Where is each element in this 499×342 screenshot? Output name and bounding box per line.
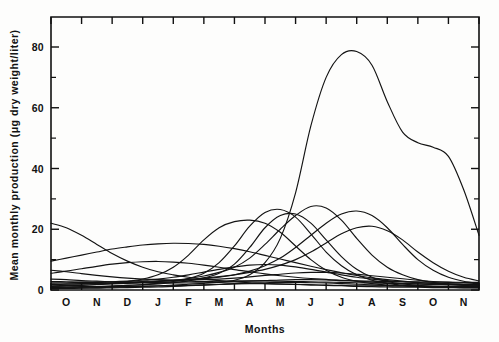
y-axis-title: Mean monthly production (μg dry weight/l… (8, 29, 20, 280)
x-tick-label: N (460, 296, 468, 308)
x-tick-label: O (62, 296, 70, 308)
series-layer (51, 51, 479, 289)
y-tick-label: 60 (32, 102, 44, 114)
y-tick-label: 80 (32, 41, 44, 53)
x-tick-label: D (123, 296, 131, 308)
x-tick-label: A (246, 296, 254, 308)
x-tick-label: N (93, 296, 101, 308)
chart-canvas: 020406080ONDJFMAMJJASON Months Mean mont… (0, 0, 499, 342)
x-tick-label: S (399, 296, 406, 308)
y-tick-label: 20 (32, 223, 44, 235)
series-line (51, 51, 479, 289)
y-tick-label: 40 (32, 163, 44, 175)
x-tick-label: J (308, 296, 314, 308)
x-axis-title: Months (245, 323, 285, 335)
x-tick-label: J (338, 296, 344, 308)
x-tick-label: O (429, 296, 437, 308)
chart-figure: 020406080ONDJFMAMJJASON Months Mean mont… (0, 0, 499, 342)
y-tick-label: 0 (38, 284, 44, 296)
axis-tick-labels: 020406080ONDJFMAMJJASON (32, 41, 468, 308)
x-tick-label: M (215, 296, 224, 308)
x-tick-label: F (185, 296, 192, 308)
series-line (51, 211, 479, 284)
x-tick-label: M (276, 296, 285, 308)
x-tick-label: J (155, 296, 161, 308)
x-tick-label: A (368, 296, 376, 308)
